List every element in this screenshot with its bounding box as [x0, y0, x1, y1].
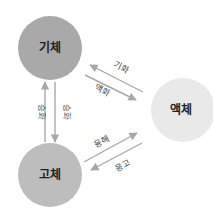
- edge-label-sublimation-down: 승화: [62, 104, 72, 120]
- edge-label-melting: 융해: [92, 133, 111, 149]
- edge-label-freezing: 응고: [113, 157, 132, 173]
- edge-label-vaporization: 기화: [112, 59, 131, 75]
- gas-label: 기체: [39, 40, 61, 55]
- node-gas: 기체: [18, 16, 82, 80]
- edge-label-sublimation-up: 승화: [37, 104, 47, 120]
- edge-label-condensation: 액화: [93, 82, 112, 98]
- liquid-label: 액체: [170, 102, 192, 117]
- node-liquid: 액체: [151, 78, 213, 142]
- states-of-matter-diagram: 기체 액체 고체 승화 승화 기화 액화 융해 응고: [0, 0, 213, 222]
- arrow-solid-to-liquid: [84, 133, 137, 162]
- solid-label: 고체: [39, 167, 61, 182]
- node-solid: 고체: [18, 143, 82, 207]
- arrow-gas-to-liquid: [85, 75, 136, 100]
